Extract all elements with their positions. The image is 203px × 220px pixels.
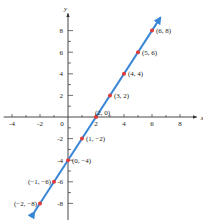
y-tick-label: -2: [57, 135, 63, 143]
y-tick-label: -6: [57, 178, 63, 186]
data-point-label: (3, 2): [114, 92, 130, 100]
x-tick-label: 6: [150, 120, 154, 128]
data-point: [66, 158, 70, 162]
y-tick-label: 6: [60, 49, 64, 57]
data-point-label: (−2, −8): [14, 200, 38, 208]
data-point: [38, 201, 42, 205]
y-tick-label: -8: [57, 200, 63, 208]
data-point-label: (5, 6): [142, 49, 158, 57]
data-point-label: (4, 4): [128, 70, 144, 78]
data-point: [122, 72, 126, 76]
y-tick-label: 2: [60, 92, 64, 100]
data-point: [108, 93, 112, 97]
data-point: [80, 137, 84, 141]
data-point-label: (0, −4): [72, 157, 92, 165]
y-axis-label: y: [63, 5, 68, 13]
data-point-label: (6, 8): [156, 27, 172, 35]
points: (−2, −8)(−1, −6)(0, −4)(1, −2)(2, 0)(3, …: [14, 27, 172, 208]
y-tick-label: -4: [57, 157, 63, 165]
data-point: [136, 50, 140, 54]
x-tick-label: -4: [9, 120, 15, 128]
y-tick-label: 8: [60, 27, 64, 35]
x-tick-label: 8: [178, 120, 182, 128]
coordinate-plane: xy -4-202468-8-6-4-22468 (−2, −8)(−1, −6…: [0, 0, 203, 220]
x-tick-label: 4: [122, 120, 126, 128]
y-tick-label: 4: [60, 70, 64, 78]
data-point: [150, 29, 154, 33]
x-tick-label: 0: [60, 120, 64, 128]
x-axis-label: x: [200, 114, 203, 122]
data-point-label: (1, −2): [86, 135, 106, 143]
data-point-label: (−1, −6): [28, 178, 52, 186]
x-tick-label: 2: [94, 120, 98, 128]
data-point: [52, 180, 56, 184]
x-tick-label: -2: [37, 120, 43, 128]
data-point-label: (2, 0): [95, 109, 111, 117]
